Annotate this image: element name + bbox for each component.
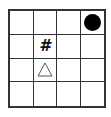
triangle-outline-icon xyxy=(37,62,53,77)
game-board: # xyxy=(8,9,106,108)
board-cell-r0-c0[interactable] xyxy=(10,11,34,35)
board-cell-r2-c2[interactable] xyxy=(57,59,81,83)
hash-icon: # xyxy=(39,38,50,54)
board-cell-r0-c1[interactable] xyxy=(34,11,58,35)
board-cell-r1-c2[interactable] xyxy=(57,35,81,59)
board-cell-r2-c1[interactable] xyxy=(34,59,58,83)
board-cell-r0-c3[interactable] xyxy=(81,11,105,35)
board-cell-r2-c3[interactable] xyxy=(81,59,105,83)
board-cell-r3-c0[interactable] xyxy=(10,82,34,106)
board-cell-r3-c3[interactable] xyxy=(81,82,105,106)
board-cell-r3-c1[interactable] xyxy=(34,82,58,106)
board-cell-r2-c0[interactable] xyxy=(10,59,34,83)
board-cell-r1-c3[interactable] xyxy=(81,35,105,59)
board-cell-r3-c2[interactable] xyxy=(57,82,81,106)
board-cell-r0-c2[interactable] xyxy=(57,11,81,35)
filled-circle-icon xyxy=(84,14,101,31)
board-cell-r1-c1[interactable]: # xyxy=(34,35,58,59)
board-cell-r1-c0[interactable] xyxy=(10,35,34,59)
